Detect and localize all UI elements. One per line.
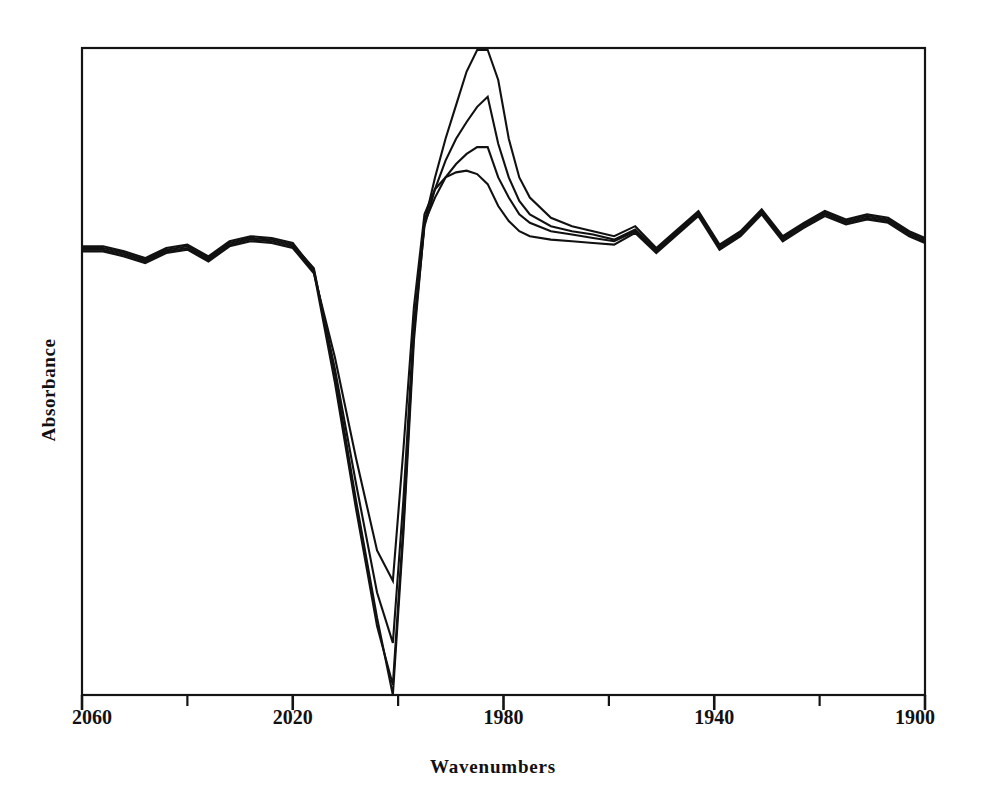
x-tick-label: 2060 bbox=[72, 706, 112, 729]
plot-canvas bbox=[0, 0, 986, 806]
spectrum-figure: Absorbance Wavenumbers 20602020198019401… bbox=[0, 0, 986, 806]
y-axis-label-wrap: Absorbance bbox=[34, 280, 64, 500]
x-tick-label: 1900 bbox=[895, 706, 935, 729]
x-tick-label: 1940 bbox=[694, 706, 734, 729]
x-axis-label: Wavenumbers bbox=[0, 756, 986, 778]
y-axis-label: Absorbance bbox=[38, 338, 60, 441]
x-tick-label: 2020 bbox=[273, 706, 313, 729]
x-tick-label: 1980 bbox=[484, 706, 524, 729]
